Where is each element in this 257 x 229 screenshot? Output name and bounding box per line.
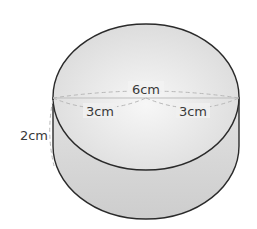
cylinder-top-face [53,24,239,170]
radius-right-label: 3cm [179,104,207,119]
radius-left-label: 3cm [86,104,114,119]
cylinder-figure: 6cm 3cm 3cm 2cm [0,0,257,229]
height-label: 2cm [20,128,48,143]
diameter-label: 6cm [132,82,160,97]
cylinder-diagram: 6cm 3cm 3cm 2cm [0,0,257,229]
